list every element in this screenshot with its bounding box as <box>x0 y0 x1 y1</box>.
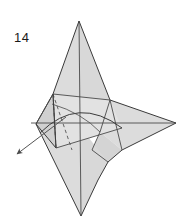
origami-figure: 14 <box>0 0 191 216</box>
origami-diagram-svg <box>0 0 191 216</box>
